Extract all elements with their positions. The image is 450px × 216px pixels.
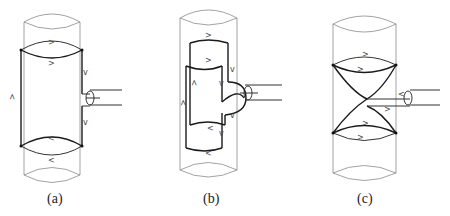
svg-text:v: v bbox=[230, 65, 235, 74]
svg-text:>: > bbox=[8, 93, 17, 100]
svg-text:>: > bbox=[357, 133, 364, 142]
svg-text:v: v bbox=[219, 79, 224, 88]
caption-c: (c) bbox=[357, 191, 373, 207]
svg-text:>: > bbox=[205, 56, 212, 65]
svg-text:<: < bbox=[205, 149, 212, 158]
caption-a: (a) bbox=[47, 191, 63, 207]
svg-text:>: > bbox=[205, 31, 212, 40]
panel-b: > > v v > > v < v < (b) bbox=[179, 10, 282, 207]
svg-text:<: < bbox=[398, 90, 405, 99]
svg-text:<: < bbox=[48, 134, 55, 143]
svg-text:<: < bbox=[48, 156, 55, 165]
figure-canvas: > > > v v < < (a) bbox=[0, 0, 450, 216]
svg-text:v: v bbox=[230, 111, 235, 120]
panel-c: > > < > > > (c) bbox=[332, 16, 441, 207]
svg-text:>: > bbox=[179, 99, 188, 106]
svg-text:>: > bbox=[48, 59, 55, 68]
svg-text:v: v bbox=[219, 129, 224, 138]
svg-text:>: > bbox=[48, 38, 55, 47]
svg-text:>: > bbox=[190, 79, 199, 86]
svg-text:>: > bbox=[384, 105, 391, 114]
svg-text:>: > bbox=[362, 50, 369, 59]
svg-text:>: > bbox=[357, 65, 364, 74]
caption-b: (b) bbox=[203, 191, 220, 207]
coupling-loop-a bbox=[82, 90, 122, 106]
svg-text:<: < bbox=[207, 124, 214, 133]
panel-a: > > > v v < < (a) bbox=[8, 14, 122, 207]
svg-text:v: v bbox=[83, 118, 88, 127]
svg-text:>: > bbox=[362, 119, 369, 128]
svg-text:v: v bbox=[83, 68, 88, 77]
